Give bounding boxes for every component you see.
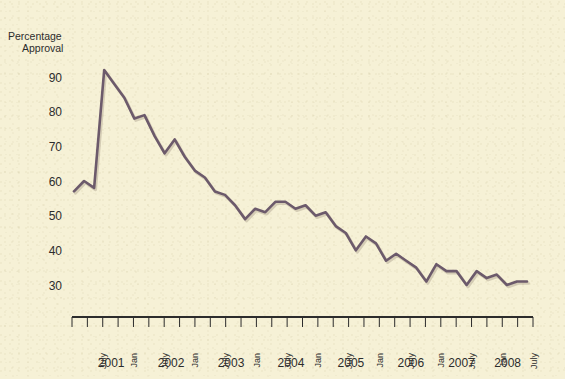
x-month-label-jan-5: Jan [252,353,262,368]
x-year-label-2003: 2003 [218,356,245,370]
y-tick-label-40: 40 [49,244,63,258]
y-tick-label-30: 30 [49,279,63,293]
x-month-label-jan-1: Jan [129,353,139,368]
chart-container: Percentage Approval 30405060708090 JulyJ… [0,0,565,379]
x-year-label-2005: 2005 [338,356,365,370]
y-axis-title-line1: Percentage [8,30,62,42]
y-tick-label-70: 70 [49,140,63,154]
y-axis-title-line2: Approval [22,42,63,54]
x-month-label-jan-9: Jan [375,353,385,368]
approval-data-line [74,70,527,285]
y-tick-label-50: 50 [49,209,63,223]
y-tick-label-90: 90 [49,71,63,85]
x-year-label-2006: 2006 [397,356,424,370]
x-axis-year-labels: 20012002200320042005200620072008 [98,356,521,370]
x-year-label-2001: 2001 [98,356,125,370]
x-month-label-jan-3: Jan [190,353,200,368]
x-axis [72,317,533,327]
y-tick-label-60: 60 [49,175,63,189]
y-axis-tick-labels: 30405060708090 [49,71,63,293]
x-month-label-jan-11: Jan [436,353,446,368]
data-line-shadow [75,72,528,287]
x-month-label-jan-7: Jan [313,353,323,368]
x-year-label-2004: 2004 [278,356,305,370]
x-year-label-2002: 2002 [158,356,185,370]
y-tick-label-80: 80 [49,105,63,119]
x-year-label-2007: 2007 [448,356,475,370]
y-axis-title: Percentage Approval [8,30,63,54]
approval-rating-line-chart: Percentage Approval 30405060708090 JulyJ… [0,0,565,379]
x-year-label-2008: 2008 [494,356,521,370]
x-month-label-july-14: July [529,353,539,370]
